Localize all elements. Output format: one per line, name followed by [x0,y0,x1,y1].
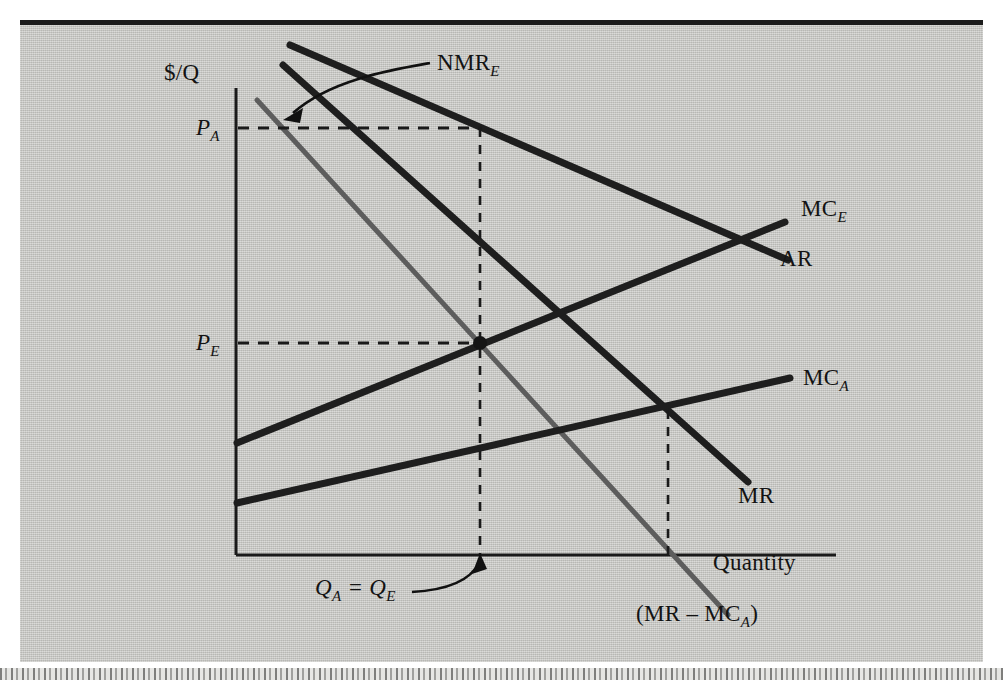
label-mr-minus-mca: (MR – MCA) [636,601,758,631]
nmr-callout-arrowhead [283,108,303,123]
label-mr: MR [738,483,774,509]
curve-mc-e [237,222,785,443]
figure-container: $/Q PA PE Quantity NMRE MCE AR MCA MR (M… [0,0,1003,680]
label-quantity-annotation: QA = QE [315,575,396,605]
label-nmr-e: NMRE [437,50,500,80]
curve-mc-a [237,378,790,503]
x-axis-label: Quantity [713,550,796,576]
label-mc-a: MCA [803,365,849,395]
price-tick-pa: PA [196,115,220,145]
diagram-plot [0,0,1003,680]
label-ar: AR [780,246,813,272]
y-axis-label: $/Q [164,60,199,86]
curve-nmr-e [257,100,728,615]
price-tick-pe: PE [196,330,220,360]
quantity-callout-arrow [412,563,479,592]
label-mc-e: MCE [801,196,847,226]
curve-mr [283,65,748,482]
equilibrium-node [473,336,487,350]
